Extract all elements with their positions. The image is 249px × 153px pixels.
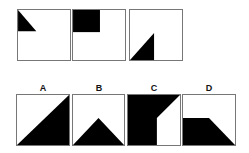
sequence-figure-2 bbox=[72, 9, 126, 61]
option-label-c: C bbox=[127, 83, 181, 93]
black-square-icon bbox=[73, 10, 125, 60]
option-label-b: B bbox=[72, 83, 126, 93]
black-triangle-icon bbox=[17, 95, 69, 145]
black-triangle-icon bbox=[18, 10, 70, 60]
option-d[interactable] bbox=[182, 94, 236, 146]
option-a[interactable] bbox=[16, 94, 70, 146]
option-c[interactable] bbox=[127, 94, 181, 146]
black-pentagon-icon bbox=[128, 95, 180, 145]
option-label-d: D bbox=[182, 83, 236, 93]
option-b[interactable] bbox=[72, 94, 125, 146]
option-label-a: A bbox=[16, 83, 70, 93]
black-trapezoid-icon bbox=[183, 95, 235, 145]
black-triangle-icon bbox=[130, 10, 182, 60]
sequence-figure-3 bbox=[129, 9, 183, 61]
sequence-figure-1 bbox=[17, 9, 71, 61]
black-triangle-icon bbox=[73, 95, 124, 145]
